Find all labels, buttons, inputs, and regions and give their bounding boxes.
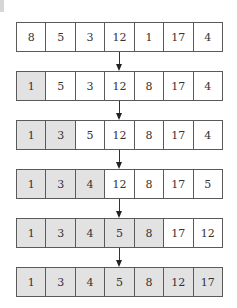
array-row-3: 135128174 xyxy=(16,120,223,150)
array-row-6: 134581217 xyxy=(16,267,223,297)
array-cell: 8 xyxy=(135,72,164,100)
array-cell: 12 xyxy=(105,72,134,100)
array-row-2: 153128174 xyxy=(16,71,223,101)
array-cell-sorted: 4 xyxy=(76,268,105,296)
array-row-5: 134581712 xyxy=(16,218,223,248)
array-cell-sorted: 8 xyxy=(135,219,164,247)
array-cell: 8 xyxy=(17,23,46,51)
array-cell: 3 xyxy=(76,72,105,100)
array-cell: 12 xyxy=(194,219,222,247)
array-cell-sorted: 1 xyxy=(17,121,46,149)
array-cell-sorted: 17 xyxy=(194,268,222,296)
array-cell: 3 xyxy=(76,23,105,51)
array-row-1: 853121174 xyxy=(16,22,223,52)
array-cell: 4 xyxy=(194,23,222,51)
array-cell: 12 xyxy=(105,23,134,51)
array-cell: 12 xyxy=(105,121,134,149)
array-cell: 1 xyxy=(135,23,164,51)
array-cell-sorted: 3 xyxy=(46,170,75,198)
array-cell: 17 xyxy=(164,219,193,247)
down-arrow-icon xyxy=(119,52,121,71)
array-cell: 8 xyxy=(135,121,164,149)
array-cell-sorted: 3 xyxy=(46,121,75,149)
array-cell-sorted: 3 xyxy=(46,219,75,247)
array-cell: 17 xyxy=(164,72,193,100)
down-arrow-icon xyxy=(119,101,121,120)
array-cell: 5 xyxy=(194,170,222,198)
array-cell-sorted: 5 xyxy=(105,219,134,247)
down-arrow-icon xyxy=(119,199,121,218)
corner-artifact xyxy=(0,0,4,12)
down-arrow-icon xyxy=(119,248,121,267)
array-cell: 4 xyxy=(194,72,222,100)
array-cell: 12 xyxy=(105,170,134,198)
array-cell-sorted: 1 xyxy=(17,170,46,198)
array-cell: 17 xyxy=(164,121,193,149)
array-cell-sorted: 4 xyxy=(76,170,105,198)
array-cell: 8 xyxy=(135,170,164,198)
array-cell: 5 xyxy=(46,72,75,100)
array-cell: 17 xyxy=(164,170,193,198)
array-cell-sorted: 12 xyxy=(164,268,193,296)
array-cell-sorted: 3 xyxy=(46,268,75,296)
array-cell-sorted: 1 xyxy=(17,72,46,100)
array-cell-sorted: 1 xyxy=(17,219,46,247)
array-cell: 5 xyxy=(46,23,75,51)
array-cell-sorted: 4 xyxy=(76,219,105,247)
array-cell: 5 xyxy=(76,121,105,149)
array-row-4: 134128175 xyxy=(16,169,223,199)
down-arrow-icon xyxy=(119,150,121,169)
array-cell-sorted: 5 xyxy=(105,268,134,296)
array-cell: 17 xyxy=(164,23,193,51)
array-cell-sorted: 8 xyxy=(135,268,164,296)
array-cell: 4 xyxy=(194,121,222,149)
array-cell-sorted: 1 xyxy=(17,268,46,296)
